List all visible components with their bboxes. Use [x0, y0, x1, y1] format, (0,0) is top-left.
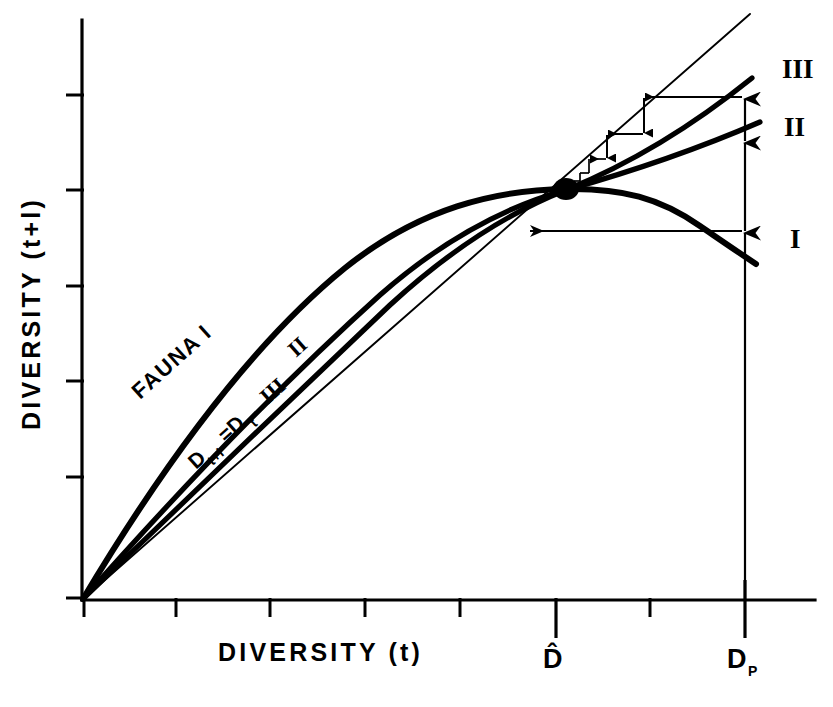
right-label-fauna-3: III: [782, 54, 814, 84]
fauna-2-inline-label: II: [283, 332, 312, 362]
fauna-1-inline-label: FAUNA I: [127, 319, 217, 403]
fauna-1-curve: [83, 189, 756, 599]
x-axis-ticks: [84, 580, 745, 638]
x-tick-label-perturbed-sub: P: [748, 663, 757, 679]
x-axis-title: DIVERSITY (t): [218, 638, 423, 666]
identity-label-eqD: =D: [213, 411, 249, 446]
right-label-fauna-1: I: [790, 224, 801, 254]
x-tick-label-equilibrium: D̂: [543, 642, 563, 674]
cobweb-figure-svg: DIVERSITY (t+l) DIVERSITY (t) D̂ D P FAU…: [0, 0, 833, 707]
x-tick-label-perturbed-base: D: [727, 644, 747, 674]
figure-root: DIVERSITY (t+l) DIVERSITY (t) D̂ D P FAU…: [0, 0, 833, 707]
y-axis-title: DIVERSITY (t+l): [17, 197, 45, 430]
identity-diagonal-curve: [82, 14, 750, 600]
equilibrium-point-marker: [553, 178, 579, 200]
right-label-fauna-2: II: [784, 112, 805, 142]
cobweb-arrow-group: [530, 97, 742, 231]
x-tick-label-perturbed: D P: [727, 644, 757, 679]
curve-group: [82, 14, 760, 600]
